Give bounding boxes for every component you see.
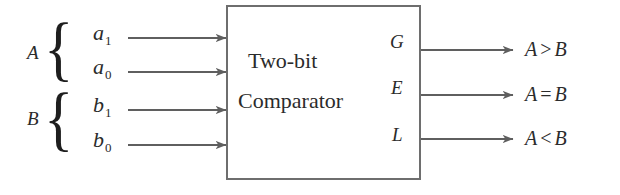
input-label-b0-name: b	[93, 127, 104, 152]
output-port-label-l: L	[392, 125, 403, 144]
output-expression-equal-left: A	[525, 83, 537, 105]
comparator-block-title-line1: Two-bit	[248, 50, 317, 72]
input-group-brace-a: {	[44, 12, 73, 84]
input-label-b0-sub: 0	[105, 140, 112, 155]
input-label-b1-name: b	[93, 92, 104, 117]
output-expression-greater-right: B	[555, 38, 567, 60]
input-label-a0-name: a	[93, 54, 104, 79]
less-than-icon: <	[540, 127, 551, 149]
input-label-b0: b0	[93, 129, 112, 154]
input-label-a0-sub: 0	[105, 67, 112, 82]
input-group-label-b: B	[27, 109, 39, 128]
comparator-block-title-line2: Comparator	[238, 90, 343, 112]
input-label-a1: a1	[93, 22, 112, 47]
input-label-a0: a0	[93, 56, 112, 81]
equals-icon: =	[540, 83, 551, 105]
output-port-label-e: E	[391, 78, 403, 97]
output-expression-equal: A=B	[525, 84, 567, 104]
output-expression-less-left: A	[525, 127, 537, 149]
output-expression-equal-right: B	[555, 83, 567, 105]
input-group-brace-b: {	[44, 82, 73, 154]
input-label-b1-sub: 1	[105, 105, 112, 120]
two-bit-comparator-diagram: A { B { a1 a0 b1 b0 Two-bit Comparator G…	[0, 0, 620, 195]
input-label-a1-name: a	[93, 20, 104, 45]
output-port-label-g: G	[390, 32, 404, 51]
output-expression-greater-left: A	[525, 38, 537, 60]
input-group-label-a: A	[27, 43, 39, 62]
output-expression-less: A<B	[525, 128, 567, 148]
input-label-b1: b1	[93, 94, 112, 119]
input-label-a1-sub: 1	[105, 33, 112, 48]
output-expression-less-right: B	[555, 127, 567, 149]
output-expression-greater: A>B	[525, 39, 567, 59]
greater-than-icon: >	[540, 38, 551, 60]
